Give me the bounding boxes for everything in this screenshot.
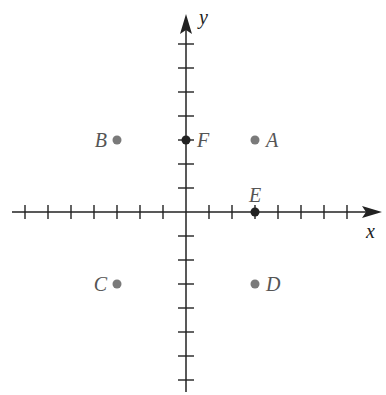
coordinate-plane: ABCDEF x y bbox=[0, 0, 386, 395]
point-c-label: C bbox=[94, 273, 108, 295]
point-b-dot bbox=[113, 136, 122, 145]
y-axis-label: y bbox=[197, 6, 208, 29]
x-axis-label: x bbox=[365, 220, 375, 242]
point-c-dot bbox=[113, 280, 122, 289]
point-f-label: F bbox=[196, 129, 210, 151]
point-b-label: B bbox=[95, 129, 107, 151]
point-e-dot bbox=[251, 208, 260, 217]
point-a-label: A bbox=[264, 129, 279, 151]
point-d-label: D bbox=[265, 273, 281, 295]
point-a-dot bbox=[251, 136, 260, 145]
point-d-dot bbox=[251, 280, 260, 289]
point-e-label: E bbox=[248, 184, 261, 206]
point-f-dot bbox=[182, 136, 191, 145]
